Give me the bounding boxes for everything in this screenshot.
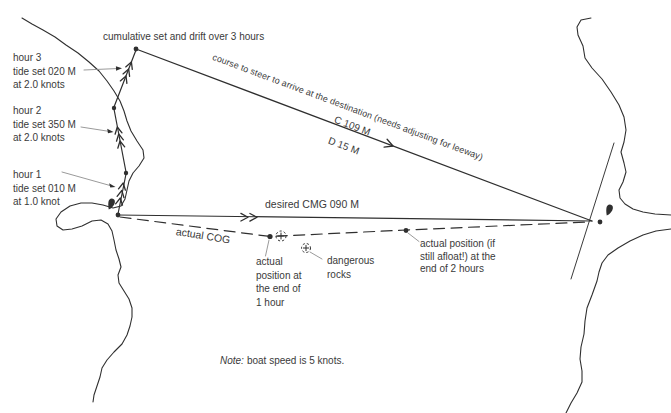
dangerous-rock-icon: [276, 231, 286, 241]
fix-1hour-dot: [267, 234, 272, 239]
tide-vector-hour3: [114, 50, 136, 107]
note-label: Note:boat speed is 5 knots.: [220, 354, 344, 368]
note-text: boat speed is 5 knots.: [247, 355, 344, 366]
hour3-leader-line: [84, 69, 116, 70]
fix-2hour-dot: [404, 228, 409, 233]
hour1-name: hour 1: [13, 168, 76, 182]
chartwork-diagram: cumulative set and drift over 3 hours ho…: [0, 0, 671, 413]
hour2-rate: at 2.0 knots: [13, 131, 76, 145]
fix-1hour-label: actual position at the end of 1 hour: [256, 255, 302, 309]
hour1-rate: at 1.0 knot: [13, 195, 76, 209]
hour1-label: hour 1 tide set 010 M at 1.0 knot: [13, 168, 76, 209]
fix-2hour-line1: actual position (if: [420, 238, 496, 251]
rocks-leader-line: [310, 252, 322, 259]
rocks-line1: dangerous: [327, 254, 374, 268]
hour2-end-dot: [112, 106, 116, 110]
fix-1hour-line4: 1 hour: [256, 296, 302, 310]
fix-1hour-line2: position at: [256, 269, 302, 283]
hour3-name: hour 3: [13, 51, 76, 65]
destination-dot: [598, 220, 603, 225]
hour3-rate: at 2.0 knots: [13, 78, 76, 92]
destination-beacon-icon: [604, 204, 614, 217]
start-point-dot: [116, 213, 121, 218]
hour2-leader-line: [81, 127, 108, 131]
dangerous-rock-icon: [302, 244, 311, 253]
hour1-set: tide set 010 M: [13, 182, 76, 196]
fix2h-leader-line: [408, 233, 419, 242]
fix-1hour-line3: the end of: [256, 282, 302, 296]
fix1h-leader-line: [266, 240, 270, 256]
fix-1hour-line1: actual: [256, 255, 302, 269]
dangerous-rocks-label: dangerous rocks: [327, 254, 374, 281]
hour2-leader-arrowhead-icon: [107, 129, 113, 133]
fix-2hour-line2: still afloat!) at the: [420, 251, 496, 264]
note-prefix: Note:: [220, 355, 244, 366]
start-beacon-icon: [106, 198, 116, 211]
hour2-label: hour 2 tide set 350 M at 2.0 knots: [13, 104, 76, 145]
right-coastline-north: [577, 18, 671, 215]
hour2-set: tide set 350 M: [13, 118, 76, 132]
rocks-line2: rocks: [327, 268, 374, 282]
fix-2hour-line3: end of 2 hours: [420, 263, 496, 276]
hour3-set: tide set 020 M: [13, 65, 76, 79]
hour1-leader-arrowhead-icon: [109, 183, 115, 187]
hour3-label: hour 3 tide set 020 M at 2.0 knots: [13, 51, 76, 92]
diagram-title: cumulative set and drift over 3 hours: [103, 30, 264, 44]
desired-cmg-line: [118, 215, 592, 221]
fix-2hour-label: actual position (if still afloat!) at th…: [420, 238, 496, 276]
hour1-end-dot: [124, 171, 128, 175]
right-coastline-south: [566, 229, 671, 413]
desired-cmg-label: desired CMG 090 M: [265, 198, 359, 212]
cumulative-end-dot: [134, 47, 139, 52]
hour2-name: hour 2: [13, 104, 76, 118]
hour3-leader-arrowhead-icon: [116, 66, 122, 71]
